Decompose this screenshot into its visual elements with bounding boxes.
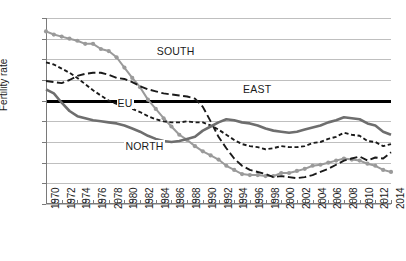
data-point-marker [279,171,283,175]
series-line [46,73,391,178]
x-axis-tick-label: 2010 [364,188,375,209]
series-label-north: NORTH [124,140,164,152]
x-axis-tick-label: 1976 [97,188,108,209]
data-point-marker [295,169,299,173]
series-line [46,31,391,176]
series-label-south: SOUTH [156,45,196,57]
x-axis-tick-label: 1986 [175,188,186,209]
x-axis-tick-label: 1990 [207,188,218,209]
data-point-marker [130,76,134,80]
series-label-eu: EU [117,97,134,109]
data-point-marker [216,157,220,161]
data-point-marker [287,171,291,175]
x-axis-tick-label: 2008 [348,188,359,209]
data-point-marker [318,163,322,167]
x-axis-tick-label: 1996 [254,188,265,209]
data-point-marker [358,159,362,163]
x-axis-tick-label: 1984 [160,188,171,209]
data-point-marker [169,124,173,128]
data-point-marker [83,42,87,46]
y-axis-title: Fertility rate [0,59,9,111]
data-point-marker [75,39,79,43]
data-point-marker [60,35,64,39]
data-point-marker [209,153,213,157]
plot-area: SOUTHEASTEUNORTH [46,18,391,204]
data-point-marker [154,107,158,111]
data-point-marker [162,116,166,120]
y-tick-mark [42,204,46,205]
x-axis-tick-label: 2014 [395,188,406,209]
data-point-marker [303,167,307,171]
data-point-marker [365,162,369,166]
x-tick-mark [391,200,392,204]
x-axis-tick-label: 2078 [113,188,124,209]
x-axis-tick-label: 2004 [317,188,328,209]
series-line [46,89,391,142]
data-point-marker [224,164,228,168]
data-point-marker [177,133,181,137]
series-label-east: EAST [242,83,272,95]
data-point-marker [52,32,56,36]
x-axis-tick-label: 2012 [379,188,390,209]
data-point-marker [193,144,197,148]
x-axis-tick-label: 1988 [191,188,202,209]
x-axis-tick-label: 1982 [144,188,155,209]
data-point-marker [256,173,260,177]
data-point-marker [44,29,48,33]
x-axis-tick-label: 2002 [301,188,312,209]
data-point-marker [107,49,111,53]
data-point-marker [99,47,103,51]
data-point-marker [91,42,95,46]
x-axis-tick-label: 1998 [270,188,281,209]
series-south [44,29,393,178]
data-point-marker [232,168,236,172]
data-point-marker [67,37,71,41]
data-point-marker [240,172,244,176]
series-north [46,89,391,142]
data-point-marker [114,55,118,59]
data-point-marker [122,66,126,70]
data-point-marker [389,170,393,174]
x-axis-tick-label: 1992 [223,188,234,209]
data-point-marker [248,173,252,177]
data-point-marker [373,164,377,168]
x-axis-tick-label: 1994 [238,188,249,209]
data-point-marker [381,168,385,172]
x-axis-tick-label: 1980 [128,188,139,209]
data-point-marker [146,98,150,102]
data-point-marker [201,149,205,153]
data-point-marker [310,164,314,168]
data-point-marker [334,159,338,163]
x-axis-tick-label: 2006 [332,188,343,209]
series-east [46,73,391,178]
data-point-marker [326,161,330,165]
x-axis-tick-label: 2000 [285,188,296,209]
x-axis-tick-label: 1974 [81,188,92,209]
series-layer [46,18,391,204]
x-axis-tick-label: 1970 [50,188,61,209]
x-axis-tick-label: 1972 [66,188,77,209]
